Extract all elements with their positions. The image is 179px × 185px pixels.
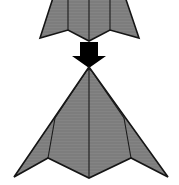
fold-diagram-container: Origami fold step diagram [0, 0, 179, 185]
fold-diagram-svg [0, 0, 179, 185]
